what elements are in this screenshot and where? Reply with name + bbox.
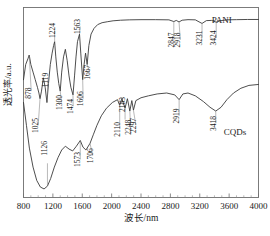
x-tick-label: 2800 [161,201,180,211]
x-tick-label: 2400 [132,201,151,211]
peak-label-1606: 1606 [76,91,85,106]
peak-label-1224: 1224 [48,23,57,38]
peak-label-2297: 2297 [129,118,138,133]
peak-label-1126: 1126 [40,141,49,156]
peak-label-3418: 3418 [209,116,218,131]
ftir-spectra-figure: 80012001600200024002800320036004000波长/nm… [0,0,270,236]
peak-label-878: 878 [24,87,33,99]
series-curve-pani [24,19,259,102]
peak-label-1474: 1474 [66,99,75,114]
peak-label-1667: 1667 [83,64,92,79]
x-tick-label: 3200 [191,201,210,211]
peak-label-2183: 2183 [118,97,127,112]
peak-label-2110: 2110 [113,122,122,137]
peak-label-2919: 2919 [172,108,181,123]
chart-canvas: 80012001600200024002800320036004000波长/nm… [0,0,270,236]
peak-label-1119: 1119 [41,73,50,88]
peak-label-1573: 1573 [73,152,82,167]
peak-label-2918: 2918 [173,32,182,47]
y-axis-title: 透光率/a.u. [2,63,13,106]
x-tick-label: 1200 [44,201,63,211]
series-label-pani: PANI [212,15,232,25]
x-tick-label: 1600 [73,201,92,211]
peak-label-3424: 3424 [209,30,218,45]
peak-label-1706: 1706 [86,148,95,163]
peak-label-3231: 3231 [195,30,204,45]
x-tick-label: 2000 [103,201,122,211]
series-label-cqds: CQDs [224,127,247,137]
peak-label-1025: 1025 [31,118,40,133]
peak-label-1300: 1300 [55,95,64,110]
x-axis-title: 波长/nm [124,212,159,223]
x-tick-label: 4000 [250,201,269,211]
peak-label-1563: 1563 [73,19,82,34]
x-tick-label: 800 [17,201,31,211]
x-tick-label: 3600 [220,201,239,211]
